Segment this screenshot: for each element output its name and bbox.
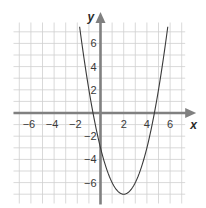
x-tick-label: 4 <box>144 118 150 130</box>
x-tick-label: −6 <box>23 118 36 130</box>
x-tick-label: −4 <box>46 118 59 130</box>
x-tick-label: −2 <box>69 118 82 130</box>
axes <box>14 12 197 204</box>
y-tick-label: −2 <box>84 130 97 142</box>
parabola-graph: −6−4−2246 −6−4−2246 x y <box>0 0 206 208</box>
x-axis-arrow-icon <box>185 108 196 118</box>
y-tick-label: −4 <box>84 153 97 165</box>
x-tick-label: 6 <box>167 118 173 130</box>
x-tick-label: 2 <box>121 118 127 130</box>
y-axis-label: y <box>87 10 96 24</box>
y-tick-label: 6 <box>90 37 96 49</box>
y-axis-arrow-icon <box>96 12 106 23</box>
x-tick-labels: −6−4−2246 <box>23 118 174 130</box>
x-axis-label: x <box>189 118 198 132</box>
y-tick-label: 2 <box>90 84 96 96</box>
y-tick-label: −6 <box>84 177 97 189</box>
y-tick-label: 4 <box>90 61 96 73</box>
